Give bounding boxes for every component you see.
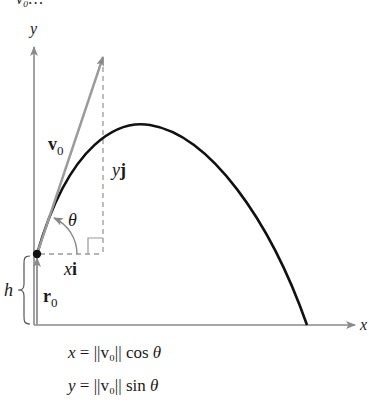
v0-label: v0	[48, 134, 64, 158]
y-axis-label: y	[28, 20, 38, 38]
equation-y: y = ||v₀|| sin θ	[66, 376, 158, 395]
projectile-diagram: v₀… y x v0 yj θ xi h r0 x = ||v₀|| cos θ…	[0, 0, 369, 408]
theta-label: θ	[68, 210, 77, 230]
yj-label: yj	[110, 160, 126, 180]
height-brace	[18, 256, 30, 324]
x-axis-label: x	[359, 316, 367, 333]
equation-x: x = ||v₀|| cos θ	[67, 343, 161, 362]
trajectory-curve	[37, 124, 307, 325]
top-fragment: v₀…	[16, 0, 43, 7]
launch-point	[33, 250, 41, 258]
r0-label: r0	[43, 286, 58, 310]
right-angle-marker	[88, 238, 103, 254]
xi-label: xi	[63, 259, 77, 279]
h-label: h	[4, 280, 13, 300]
